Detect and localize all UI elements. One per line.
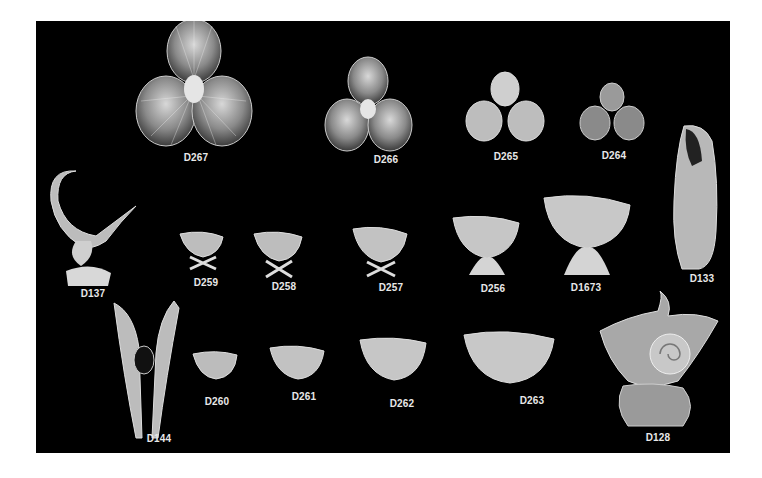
cornucopia-icon (36, 161, 146, 296)
shell-dish-d267: D267 (136, 21, 251, 151)
triple-scallop-icon (464, 71, 544, 146)
shell-dish-d256: D256 (451, 213, 523, 303)
shell-dish-d260: D260 (191, 349, 241, 409)
triple-scallop-icon (576, 81, 648, 151)
footed-shell-icon (462, 327, 557, 387)
triple-scallop-icon (136, 21, 251, 151)
nautilus-centerpiece-icon (588, 286, 723, 431)
triple-scallop-icon (326, 57, 411, 152)
item-code-label: D263 (520, 395, 545, 406)
centerpiece-d128: D128 (588, 286, 723, 446)
footed-shell-icon (268, 343, 328, 383)
shell-dish-d262: D262 (358, 335, 430, 410)
item-code-label: D261 (292, 391, 317, 402)
spiral-shell-icon (664, 121, 728, 271)
footed-shell-icon (191, 349, 241, 384)
shell-dish-d266: D266 (326, 57, 411, 152)
nautilus-shell-icon (351, 224, 411, 279)
nautilus-shell-icon (451, 213, 523, 278)
salt-cellar-d258: D258 (252, 229, 306, 304)
item-code-label: D258 (272, 281, 297, 292)
shell-dish-d263: D263 (462, 327, 557, 407)
item-code-label: D128 (646, 432, 671, 443)
item-code-label: D257 (379, 282, 404, 293)
salt-cellar-d259: D259 (178, 229, 228, 299)
item-code-label: D264 (602, 150, 627, 161)
item-code-label: D262 (390, 398, 415, 409)
shell-dish-d261: D261 (268, 343, 328, 403)
nautilus-shell-icon (542, 193, 632, 278)
nautilus-shell-icon (178, 229, 228, 279)
shell-dish-d265: D265 (464, 71, 544, 146)
catalog-panel: D267 D266 D265 D264 (36, 21, 730, 453)
nautilus-shell-icon (252, 229, 306, 281)
item-code-label: D259 (194, 277, 219, 288)
footed-shell-icon (358, 335, 430, 383)
salt-cellar-d257: D257 (351, 224, 411, 304)
shell-dish-d264: D264 (576, 81, 648, 151)
item-code-label: D133 (690, 273, 715, 284)
item-code-label: D256 (481, 283, 506, 294)
item-code-label: D144 (147, 433, 172, 444)
item-code-label: D137 (81, 288, 106, 299)
item-code-label: D265 (494, 151, 519, 162)
item-code-label: D260 (205, 396, 230, 407)
double-horn-shell-icon (104, 298, 204, 443)
item-code-label: D266 (374, 154, 399, 165)
shell-vase-d137: D137 (36, 161, 146, 296)
item-code-label: D267 (184, 152, 209, 163)
shell-vase-d144: D144 (104, 298, 204, 453)
shell-vase-d133: D133 (664, 121, 728, 286)
